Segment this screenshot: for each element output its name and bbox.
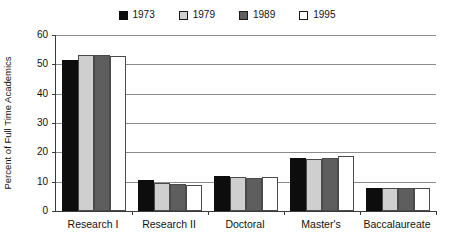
legend-entry-1989[interactable]: 1989 bbox=[239, 10, 275, 20]
legend-label-1973: 1973 bbox=[133, 10, 155, 20]
legend-swatch-1995-icon bbox=[299, 11, 308, 20]
bar-master-s-1973[interactable] bbox=[290, 158, 306, 211]
bar-research-i-1973[interactable] bbox=[62, 60, 78, 211]
bar-chart: 1973197919891995 Percent of Full Time Ac… bbox=[0, 0, 454, 248]
bar-research-i-1995[interactable] bbox=[110, 56, 126, 211]
x-tick-label-research-ii: Research II bbox=[131, 218, 207, 230]
y-tick-label-50: 50 bbox=[8, 59, 48, 69]
x-tick-label-doctoral: Doctoral bbox=[207, 218, 283, 230]
y-tick-label-10: 10 bbox=[8, 177, 48, 187]
bar-master-s-1979[interactable] bbox=[306, 159, 322, 211]
legend-label-1989: 1989 bbox=[253, 10, 275, 20]
y-tick-label-60: 60 bbox=[8, 30, 48, 40]
legend-label-1979: 1979 bbox=[193, 10, 215, 20]
y-tick-mark-50 bbox=[52, 64, 56, 65]
y-tick-mark-20 bbox=[52, 152, 56, 153]
bar-baccalaureate-1973[interactable] bbox=[366, 188, 382, 211]
bar-doctoral-1973[interactable] bbox=[214, 176, 230, 211]
legend-entry-1979[interactable]: 1979 bbox=[179, 10, 215, 20]
y-tick-label-30: 30 bbox=[8, 118, 48, 128]
x-tick-label-research-i: Research I bbox=[55, 218, 131, 230]
bar-doctoral-1989[interactable] bbox=[246, 178, 262, 211]
x-tick-label-master-s: Master's bbox=[283, 218, 359, 230]
bar-research-ii-1979[interactable] bbox=[154, 183, 170, 211]
x-tick-mark-2 bbox=[208, 211, 209, 215]
bar-master-s-1989[interactable] bbox=[322, 158, 338, 211]
legend-label-1995: 1995 bbox=[313, 10, 335, 20]
bar-research-ii-1973[interactable] bbox=[138, 180, 154, 211]
y-tick-mark-10 bbox=[52, 182, 56, 183]
y-tick-mark-0 bbox=[52, 211, 56, 212]
x-axis-tick-labels: Research IResearch IIDoctoralMaster'sBac… bbox=[55, 218, 435, 234]
bar-doctoral-1995[interactable] bbox=[262, 177, 278, 211]
bar-baccalaureate-1989[interactable] bbox=[398, 188, 414, 211]
legend-entry-1995[interactable]: 1995 bbox=[299, 10, 335, 20]
chart-legend: 1973197919891995 bbox=[0, 10, 454, 20]
legend-swatch-1979-icon bbox=[179, 11, 188, 20]
y-tick-mark-40 bbox=[52, 94, 56, 95]
bar-baccalaureate-1979[interactable] bbox=[382, 188, 398, 211]
bar-doctoral-1979[interactable] bbox=[230, 177, 246, 211]
legend-swatch-1989-icon bbox=[239, 11, 248, 20]
bar-master-s-1995[interactable] bbox=[338, 156, 354, 211]
gridline-y-60 bbox=[56, 35, 436, 36]
x-tick-mark-1 bbox=[132, 211, 133, 215]
bar-research-ii-1995[interactable] bbox=[186, 185, 202, 211]
x-tick-mark-5 bbox=[436, 211, 437, 215]
bar-research-i-1979[interactable] bbox=[78, 55, 94, 211]
bar-baccalaureate-1995[interactable] bbox=[414, 188, 430, 211]
y-tick-label-40: 40 bbox=[8, 89, 48, 99]
y-tick-label-20: 20 bbox=[8, 147, 48, 157]
bar-research-i-1989[interactable] bbox=[94, 55, 110, 211]
bar-research-ii-1989[interactable] bbox=[170, 184, 186, 211]
y-tick-mark-60 bbox=[52, 35, 56, 36]
x-tick-mark-4 bbox=[360, 211, 361, 215]
x-tick-mark-3 bbox=[284, 211, 285, 215]
legend-swatch-1973-icon bbox=[119, 11, 128, 20]
x-tick-label-baccalaureate: Baccalaureate bbox=[359, 218, 435, 230]
plot-area bbox=[55, 35, 436, 212]
legend-entry-1973[interactable]: 1973 bbox=[119, 10, 155, 20]
y-tick-mark-30 bbox=[52, 123, 56, 124]
y-tick-label-0: 0 bbox=[8, 206, 48, 216]
